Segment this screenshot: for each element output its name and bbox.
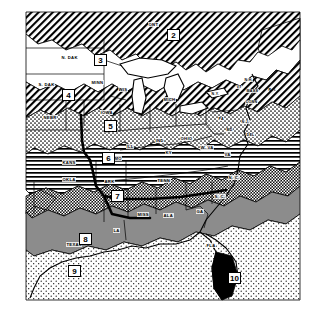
zone-badge-9: 9 xyxy=(68,265,81,277)
state-label: MICH xyxy=(163,97,176,102)
state-label: S. C. xyxy=(214,194,226,199)
state-label: S. DAK xyxy=(38,82,55,87)
state-label: LA xyxy=(113,228,120,233)
state-label: N.J. xyxy=(241,120,250,124)
zone-badge-6: 6 xyxy=(102,152,115,164)
state-label: NEBR xyxy=(43,115,57,120)
state-label: W. VA xyxy=(200,145,214,150)
zone-badge-3: 3 xyxy=(94,54,107,66)
zone-badge-10: 10 xyxy=(228,272,241,284)
state-label: ILL xyxy=(126,144,134,149)
state-label: MINN xyxy=(91,80,104,85)
state-label: FLA xyxy=(206,243,216,248)
state-label: GA xyxy=(196,209,204,214)
state-label: MISS xyxy=(137,212,149,217)
state-label: WIS xyxy=(118,87,128,92)
state-label: MASS xyxy=(246,89,259,93)
zone-map-figure: ONT N. DAK S. DAK MINN WIS MICH NEBR IOW… xyxy=(0,0,321,319)
state-label: OHIO xyxy=(180,136,193,141)
zone-badge-7: 7 xyxy=(111,190,124,202)
state-label: VT xyxy=(236,85,242,89)
state-label: N. C. xyxy=(228,175,240,180)
state-label: ONT xyxy=(148,22,159,27)
zone-badge-2: 2 xyxy=(167,29,180,41)
state-label: MD xyxy=(226,128,233,132)
state-label: ARK xyxy=(104,179,115,184)
state-label: ALA xyxy=(163,213,174,218)
state-label: OKLA xyxy=(62,177,76,182)
state-label: IOWA xyxy=(100,110,113,115)
state-label: N.H. xyxy=(244,78,253,82)
state-label: TENN xyxy=(157,178,171,183)
zone-badge-8: 8 xyxy=(79,233,92,245)
state-label: KY xyxy=(165,150,172,155)
state-label: KANS xyxy=(62,160,76,165)
state-label: DEL xyxy=(246,133,255,137)
state-label: MO xyxy=(114,156,122,161)
map-canvas xyxy=(0,0,321,319)
state-label: N.Y. xyxy=(211,92,220,96)
state-label: N. DAK xyxy=(61,55,78,60)
state-label: VA xyxy=(224,152,231,157)
state-label: R. I. xyxy=(268,88,277,92)
zone-badge-4: 4 xyxy=(62,89,75,101)
zone-badge-5: 5 xyxy=(104,120,117,132)
state-label: PA xyxy=(218,117,224,121)
state-label: IND xyxy=(155,138,164,143)
state-label: CONN xyxy=(245,100,258,104)
